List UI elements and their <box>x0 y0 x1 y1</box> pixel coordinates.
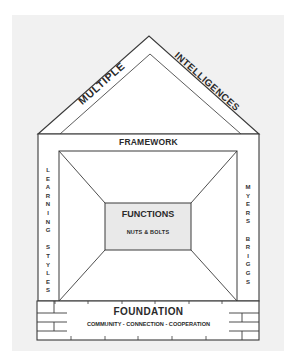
foundation-subtitle: COMMUNITY - CONNECTION - COOPERATION <box>38 322 259 328</box>
vertical-letter: R <box>243 243 253 252</box>
vertical-letter: T <box>43 252 53 261</box>
vertical-letter: B <box>243 235 253 244</box>
vertical-letter: Y <box>43 261 53 270</box>
vertical-letter: M <box>243 183 253 192</box>
vertical-letter: S <box>43 243 53 252</box>
functions-title: FUNCTIONS <box>105 210 191 219</box>
myers-briggs-label: MYERS BRIGGS <box>243 183 253 286</box>
functions-subtitle: NUTS & BOLTS <box>105 230 191 236</box>
vertical-letter: S <box>243 217 253 226</box>
vertical-letter: L <box>43 269 53 278</box>
vertical-letter <box>43 235 53 244</box>
vertical-letter: N <box>43 218 53 227</box>
vertical-letter: E <box>243 200 253 209</box>
vertical-letter: E <box>43 175 53 184</box>
vertical-letter: G <box>243 269 253 278</box>
vertical-letter: I <box>43 209 53 218</box>
house-diagram-page: MULTIPLE INTELLIGENCES FRAMEWORK LEARNIN… <box>0 0 288 358</box>
vertical-letter: Y <box>243 192 253 201</box>
vertical-letter: E <box>43 278 53 287</box>
vertical-letter: R <box>243 209 253 218</box>
learning-styles-label: LEARNING STYLES <box>43 166 53 295</box>
vertical-letter <box>243 226 253 235</box>
framework-label: FRAMEWORK <box>38 138 259 147</box>
vertical-letter: L <box>43 166 53 175</box>
vertical-letter: S <box>243 278 253 287</box>
vertical-letter: G <box>43 226 53 235</box>
vertical-letter: I <box>243 252 253 261</box>
vertical-letter: R <box>43 192 53 201</box>
vertical-letter: G <box>243 260 253 269</box>
vertical-letter: A <box>43 183 53 192</box>
vertical-letter: S <box>43 286 53 295</box>
vertical-letter: N <box>43 200 53 209</box>
foundation-title: FOUNDATION <box>38 307 259 317</box>
